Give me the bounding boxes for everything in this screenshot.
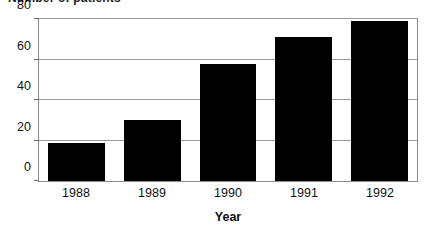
y-axis-tick-label: 0 [24,160,31,174]
x-axis-tick-labels: 19881989199019911992 [38,186,418,200]
bar-slot [115,19,191,181]
bar-slot [266,19,342,181]
x-axis-tick-label: 1988 [38,186,114,200]
bar [351,21,408,181]
x-axis-tick-label: 1989 [114,186,190,200]
bar [124,120,181,181]
x-axis-tick-label: 1990 [190,186,266,200]
y-axis-tick-label: 60 [17,39,31,53]
y-axis-tick-label: 20 [17,120,31,134]
bar [275,37,332,181]
bar-slot [39,19,115,181]
bar-series [39,19,417,181]
bar [48,143,105,181]
bar-chart: Number of patients 020406080 19881989199… [0,0,436,236]
x-axis-tick-label: 1991 [266,186,342,200]
y-axis-tick-label: 40 [17,79,31,93]
plot-area: 020406080 [38,18,418,182]
x-axis-tick-label: 1992 [342,186,418,200]
bar [200,64,257,181]
bar-slot [190,19,266,181]
bar-slot [341,19,417,181]
y-axis-tick-label: 80 [17,0,31,12]
x-axis-title: Year [38,210,418,224]
